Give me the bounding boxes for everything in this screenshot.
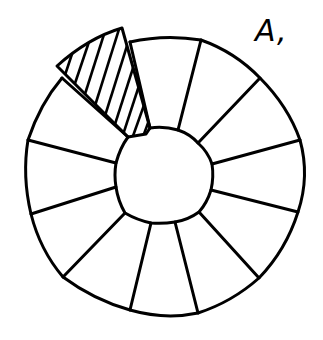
spoke	[130, 223, 151, 310]
spoke	[31, 187, 116, 214]
segmented-ring-diagram	[0, 0, 323, 340]
spoke	[211, 190, 298, 212]
figure-label: A,	[255, 16, 288, 46]
spoke	[198, 78, 260, 143]
spoke	[175, 222, 198, 313]
spoke	[212, 140, 300, 164]
spoke	[63, 213, 125, 277]
spoke	[199, 212, 259, 278]
spoke	[28, 140, 116, 163]
spoke	[178, 40, 201, 130]
ring	[26, 37, 305, 315]
